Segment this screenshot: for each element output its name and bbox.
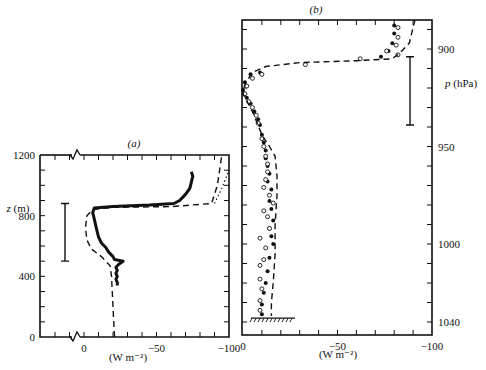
data-point-filled — [269, 207, 273, 211]
data-point-open — [262, 185, 266, 189]
data-point-filled — [392, 31, 396, 35]
panel-a: 0−50−10004008001200(a)(W m⁻²)z (m) — [6, 137, 241, 364]
figure: 0−50−10004008001200(a)(W m⁻²)z (m) 0−50−… — [0, 0, 486, 370]
data-point-filled — [260, 312, 264, 316]
data-point-open — [267, 193, 271, 197]
data-point-open — [264, 178, 268, 182]
panel-label: (b) — [310, 3, 323, 16]
data-point-filled — [269, 234, 273, 238]
y-axis-label: z (m) — [6, 202, 30, 215]
data-point-filled — [260, 133, 264, 137]
data-point-open — [266, 162, 270, 166]
y-tick-label: 1200 — [13, 149, 36, 161]
data-point-filled — [271, 219, 275, 223]
data-point-open — [266, 170, 270, 174]
series-model-dotted — [215, 170, 230, 203]
data-point-open — [396, 35, 400, 39]
data-point-filled — [262, 291, 266, 295]
data-point-open — [260, 72, 264, 76]
data-point-filled — [264, 148, 268, 152]
data-point-open — [254, 113, 258, 117]
error-bar — [406, 57, 414, 125]
y-tick-label: 0 — [30, 331, 36, 343]
data-point-open — [250, 76, 254, 80]
data-point-filled — [260, 302, 264, 306]
data-point-filled — [245, 96, 249, 100]
data-point-open — [271, 201, 275, 205]
data-point-open — [250, 106, 254, 110]
data-point-open — [267, 226, 271, 230]
x-axis-label: (W m⁻²) — [109, 351, 147, 364]
data-point-open — [258, 299, 262, 303]
data-point-open — [396, 26, 400, 30]
y-tick-label: 900 — [438, 43, 455, 55]
data-point-open — [258, 236, 262, 240]
data-point-open — [385, 49, 389, 53]
axis-frame — [242, 20, 432, 335]
data-point-filled — [262, 141, 266, 145]
data-point-open — [303, 63, 307, 67]
data-point-open — [258, 308, 262, 312]
x-tick-label: −100 — [421, 340, 444, 352]
x-tick-label: 0 — [81, 342, 87, 354]
data-point-open — [266, 215, 270, 219]
panel-b: 0−50−10090095010001040(b)(W m⁻²)p (hPa) — [240, 3, 477, 361]
y-tick-label: 400 — [19, 270, 36, 282]
data-point-filled — [379, 55, 383, 59]
x-tick-label: −50 — [148, 342, 166, 354]
data-point-filled — [269, 187, 273, 191]
x-tick-label: 0 — [240, 340, 246, 352]
x-tick-label: −100 — [218, 342, 241, 354]
series-observed — [93, 172, 193, 286]
data-point-filled — [267, 256, 271, 260]
panel-label: (a) — [128, 137, 141, 150]
data-point-open — [258, 277, 262, 281]
y-tick-label: 1000 — [438, 238, 461, 250]
data-point-open — [262, 258, 266, 262]
data-point-open — [260, 287, 264, 291]
data-point-open — [264, 154, 268, 158]
error-bar — [61, 204, 69, 262]
data-point-open — [262, 145, 266, 149]
data-point-open — [262, 209, 266, 213]
y-tick-label: 950 — [438, 141, 455, 153]
y-tick-label: 1040 — [438, 316, 461, 328]
data-point-open — [258, 263, 262, 267]
data-point-open — [264, 246, 268, 250]
x-axis-label: (W m⁻²) — [319, 348, 357, 361]
data-point-filled — [266, 269, 270, 273]
y-axis-label: p (hPa) — [444, 77, 477, 90]
data-point-filled — [264, 281, 268, 285]
data-point-open — [394, 43, 398, 47]
